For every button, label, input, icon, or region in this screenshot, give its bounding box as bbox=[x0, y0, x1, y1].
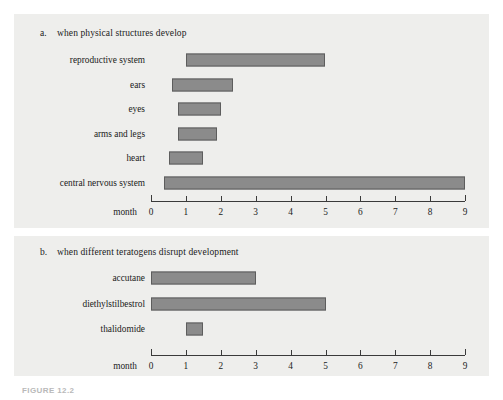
x-axis-tick bbox=[395, 350, 396, 355]
x-axis-tick-label: 6 bbox=[350, 361, 370, 371]
x-axis-tick bbox=[221, 350, 222, 355]
x-axis-tick bbox=[256, 350, 257, 355]
x-axis-tick-label: 7 bbox=[385, 361, 405, 371]
category-label: heart bbox=[126, 153, 145, 163]
x-axis-tick bbox=[151, 349, 152, 355]
x-axis-tick bbox=[186, 350, 187, 355]
x-axis-tick-label: 6 bbox=[350, 207, 370, 217]
chart-panel-b: b.when different teratogens disrupt deve… bbox=[14, 236, 489, 376]
bar bbox=[186, 54, 326, 67]
x-axis-tick-label: 8 bbox=[420, 361, 440, 371]
x-axis-tick-label: 2 bbox=[211, 207, 231, 217]
x-axis-tick bbox=[291, 350, 292, 355]
x-axis-tick bbox=[465, 195, 466, 201]
x-axis-tick-label: 5 bbox=[316, 361, 336, 371]
x-axis-tick-label: 3 bbox=[246, 207, 266, 217]
bar bbox=[178, 103, 221, 116]
x-axis-line bbox=[151, 355, 465, 356]
x-axis-tick bbox=[465, 349, 466, 355]
x-axis-tick-label: 2 bbox=[211, 361, 231, 371]
x-axis-tick-label: 9 bbox=[455, 361, 475, 371]
bar bbox=[178, 127, 217, 140]
x-axis-tick bbox=[360, 196, 361, 201]
bar bbox=[151, 297, 326, 310]
category-label: reproductive system bbox=[70, 55, 145, 65]
x-axis-tick-label: 0 bbox=[141, 207, 161, 217]
x-axis-tick-label: 5 bbox=[316, 207, 336, 217]
x-axis-tick bbox=[430, 196, 431, 201]
x-axis-tick-label: 1 bbox=[176, 361, 196, 371]
category-label: arms and legs bbox=[94, 129, 145, 139]
bar bbox=[172, 78, 233, 91]
x-axis-tick bbox=[186, 196, 187, 201]
x-axis-tick-label: 3 bbox=[246, 361, 266, 371]
bar bbox=[151, 272, 256, 285]
category-label: eyes bbox=[128, 104, 145, 114]
category-label: central nervous system bbox=[60, 178, 145, 188]
x-axis-tick bbox=[151, 195, 152, 201]
plot-area-b: accutanediethylstilbestrolthalidomide012… bbox=[14, 236, 489, 376]
bar bbox=[186, 323, 203, 336]
category-label: thalidomide bbox=[101, 324, 145, 334]
bar bbox=[164, 177, 465, 190]
x-axis-tick-label: 9 bbox=[455, 207, 475, 217]
x-axis-tick-label: 8 bbox=[420, 207, 440, 217]
bar bbox=[169, 152, 203, 165]
x-axis-title: month bbox=[113, 361, 137, 371]
x-axis-tick-label: 4 bbox=[281, 207, 301, 217]
plot-area-a: reproductive systemearseyesarms and legs… bbox=[14, 14, 489, 228]
x-axis-tick bbox=[326, 350, 327, 355]
x-axis-tick bbox=[395, 196, 396, 201]
chart-panel-a: a.when physical structures develop repro… bbox=[14, 14, 489, 228]
figure-12-2: a.when physical structures develop repro… bbox=[0, 0, 503, 400]
x-axis-line bbox=[151, 201, 465, 202]
x-axis-title: month bbox=[113, 207, 137, 217]
x-axis-tick bbox=[291, 196, 292, 201]
x-axis-tick-label: 7 bbox=[385, 207, 405, 217]
figure-caption: FIGURE 12.2 bbox=[22, 386, 74, 395]
category-label: accutane bbox=[112, 273, 145, 283]
x-axis-tick-label: 0 bbox=[141, 361, 161, 371]
x-axis-tick bbox=[360, 350, 361, 355]
category-label: diethylstilbestrol bbox=[83, 299, 146, 309]
x-axis-tick-label: 1 bbox=[176, 207, 196, 217]
x-axis-tick bbox=[430, 350, 431, 355]
x-axis-tick bbox=[221, 196, 222, 201]
x-axis-tick bbox=[256, 196, 257, 201]
x-axis-tick-label: 4 bbox=[281, 361, 301, 371]
x-axis-tick bbox=[326, 196, 327, 201]
category-label: ears bbox=[130, 80, 145, 90]
